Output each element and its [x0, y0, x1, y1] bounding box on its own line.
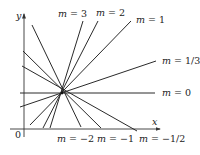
line-slope-neg1-over-2	[22, 66, 137, 131]
slope-label: m = 0	[162, 87, 191, 98]
slope-label: m = 2	[96, 7, 125, 18]
x-axis-label: x	[152, 116, 158, 127]
slope-label: m = −1	[97, 133, 134, 144]
y-axis-label: y	[15, 10, 22, 21]
slope-label: m = −1/2	[139, 133, 185, 144]
intersection-point	[61, 92, 64, 95]
slope-label: m = 3	[58, 8, 87, 19]
line-family-diagram: x y 0 m = 3m = 2m = 1m = 1/3m = 0m = −2m…	[0, 0, 200, 155]
slope-label: m = 1	[136, 14, 165, 25]
line-slope-neg1	[23, 51, 101, 128]
axes: x y 0	[10, 10, 160, 140]
origin-label: 0	[15, 129, 21, 140]
slope-lines	[20, 21, 156, 131]
slope-label: m = −2	[57, 133, 94, 144]
line-slope-3	[50, 21, 83, 128]
line-slope-2	[43, 21, 98, 128]
slope-label: m = 1/3	[162, 55, 200, 66]
